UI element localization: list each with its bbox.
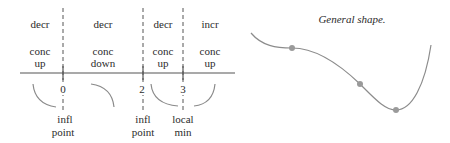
shape-arc-incr-conc-up: [194, 84, 215, 106]
critical-point-2-desc-b: point: [132, 126, 155, 138]
interval-4-monotonic: incr: [201, 18, 218, 30]
critical-point-2: 2: [139, 83, 145, 95]
graph-title: General shape.: [318, 13, 385, 25]
interval-2-monotonic: decr: [94, 18, 113, 30]
interval-3-monotonic: decr: [154, 18, 173, 30]
interval-1-concavity-a: conc: [30, 45, 51, 57]
inflection-point-2-dot: [357, 81, 363, 87]
shape-arc-decr-conc-up-2: [151, 84, 178, 106]
function-curve: [251, 33, 431, 110]
critical-point-3: 3: [180, 83, 186, 95]
critical-point-2-desc-a: infl: [135, 113, 150, 125]
inflection-point-0-dot: [289, 45, 295, 51]
interval-1-concavity-b: up: [35, 57, 47, 69]
sign-chart: decr conc up decr conc down decr conc up…: [20, 8, 235, 141]
critical-point-3-desc-a: local: [172, 113, 193, 125]
interval-1-monotonic: decr: [31, 18, 50, 30]
interval-4-concavity-b: up: [205, 57, 217, 69]
critical-point-0-desc-a: infl: [57, 113, 72, 125]
critical-point-3-desc-b: min: [174, 126, 192, 138]
curve-sketch-diagram: decr conc up decr conc down decr conc up…: [0, 0, 450, 143]
interval-2-concavity-b: down: [91, 57, 116, 69]
general-shape-graph: General shape.: [251, 13, 431, 113]
shape-arc-decr-conc-up: [33, 84, 56, 107]
critical-point-0: 0: [60, 83, 66, 95]
shape-arc-decr-conc-down: [91, 84, 114, 107]
interval-4-concavity-a: conc: [200, 45, 221, 57]
interval-3-concavity-a: conc: [153, 45, 174, 57]
interval-3-concavity-b: up: [158, 57, 170, 69]
critical-point-0-desc-b: point: [52, 126, 75, 138]
local-min-dot: [393, 107, 399, 113]
interval-2-concavity-a: conc: [93, 45, 114, 57]
